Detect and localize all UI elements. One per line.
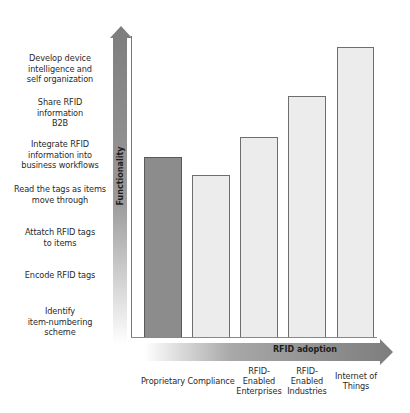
y-level-label: Attatch RFID tags to items [0,227,120,248]
bar-rfid-enabled-enterprises [240,137,278,338]
label-line: Compliance [184,376,238,386]
x-category-label: RFID- Enabled Industries [280,366,334,396]
x-category-label: Internet of Things [328,371,384,391]
label-line: Things [328,381,384,391]
bar-compliance [192,175,230,338]
label-line: Integrate RFID [0,139,120,150]
bar-internet-of-things [337,47,374,338]
label-line: information [0,108,120,119]
label-line: Share RFID [0,97,120,108]
label-line: Read the tags as items [0,184,120,195]
y-level-label: Identify item-numbering scheme [0,306,120,338]
y-level-label: Read the tags as items move through [0,184,120,205]
x-axis-line [131,337,377,338]
label-line: intelligence and [0,64,120,75]
label-line: Encode RFID tags [0,270,120,281]
x-category-label: RFID- Enabled Enterprises [232,366,286,396]
label-line: Attatch RFID tags [0,227,120,238]
label-line: Industries [280,386,334,396]
label-line: Develop device [0,53,120,64]
label-line: move through [0,195,120,206]
label-line: Identify [0,306,120,317]
label-line: Enabled [232,376,286,386]
label-line: Enterprises [232,386,286,396]
label-line: Internet of [328,371,384,381]
y-level-label: Integrate RFID information into business… [0,139,120,171]
label-line: Proprietary [136,376,190,386]
y-level-label: Develop device intelligence and self org… [0,53,120,85]
bar-proprietary [144,157,182,338]
label-line: business workflows [0,160,120,171]
x-category-label: Compliance [184,376,238,386]
label-line: self organization [0,74,120,85]
label-line: item-numbering [0,317,120,328]
label-line: B2B [0,118,120,129]
y-level-label: Share RFID information B2B [0,97,120,129]
bar-rfid-enabled-industries [288,96,326,338]
label-line: to items [0,238,120,249]
rfid-adoption-axis-title: RFID adoption [265,345,345,354]
label-line: RFID- [232,366,286,376]
x-category-label: Proprietary [136,376,190,386]
label-line: scheme [0,327,120,338]
label-line: information into [0,150,120,161]
y-level-label: Encode RFID tags [0,270,120,281]
label-line: Enabled [280,376,334,386]
label-line: RFID- [280,366,334,376]
